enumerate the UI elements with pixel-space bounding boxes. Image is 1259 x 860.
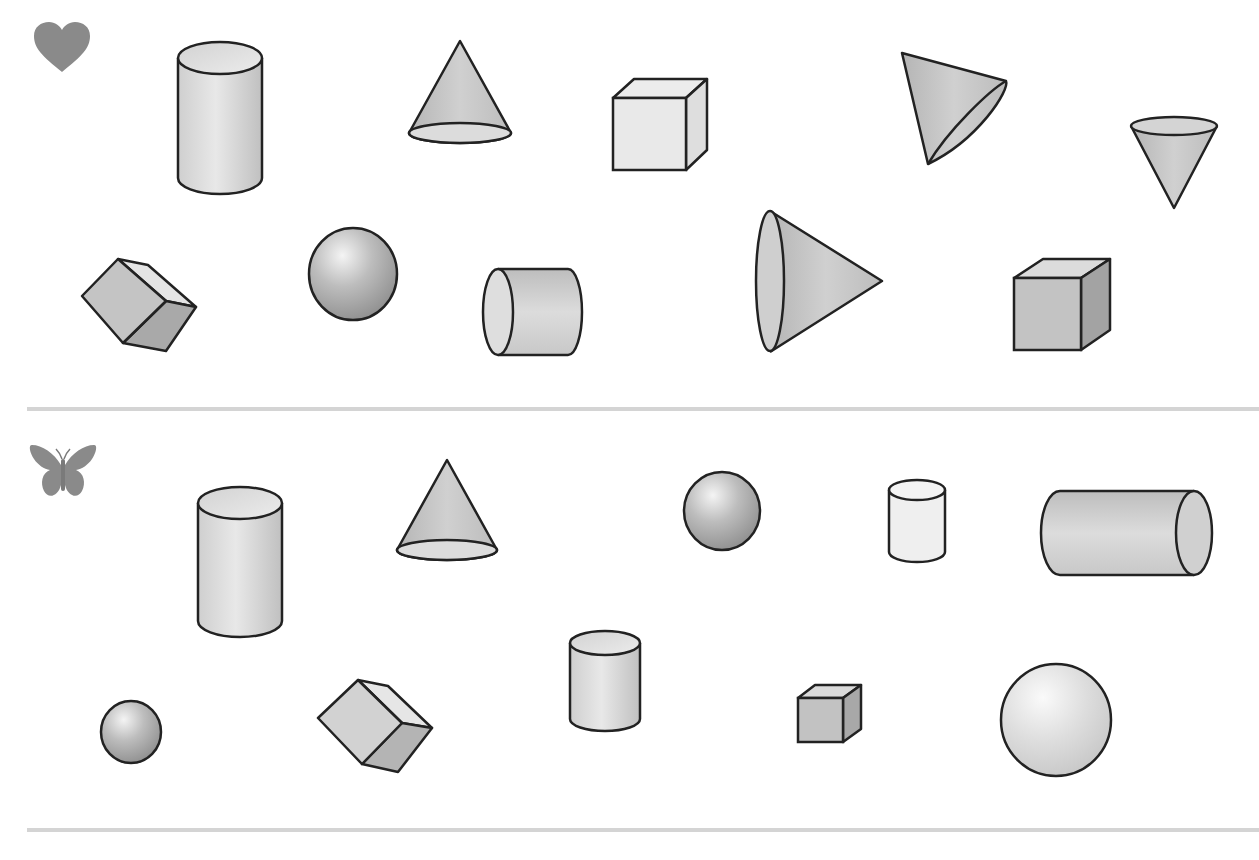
divider (27, 828, 1259, 832)
panel-heart: Heart panel: 3D shapes (0, 0, 1259, 410)
cone-shape (752, 208, 887, 356)
sphere-shape (97, 697, 165, 767)
cylinder-shape (567, 629, 643, 735)
cube-shape (314, 676, 438, 776)
sphere-shape (305, 224, 401, 324)
cylinder-shape (1038, 488, 1216, 578)
cube-shape (795, 682, 865, 746)
heart-icon (32, 20, 92, 76)
cube-shape (1011, 256, 1115, 354)
cube-shape (610, 76, 712, 174)
cylinder-shape (886, 478, 948, 566)
cylinder-shape (195, 485, 285, 643)
cone-shape (1128, 114, 1220, 212)
cone-shape (405, 38, 515, 148)
divider (27, 407, 1259, 411)
cylinder-shape (175, 40, 265, 200)
sphere-shape (680, 468, 764, 554)
cube-shape (78, 255, 202, 355)
panel-butterfly: Butterfly panel: 3D shapes (0, 412, 1259, 830)
sphere-shape (997, 660, 1115, 780)
cone-shape (898, 50, 1013, 170)
butterfly-icon (28, 443, 98, 501)
cylinder-shape (480, 266, 586, 358)
cone-shape (393, 457, 501, 565)
